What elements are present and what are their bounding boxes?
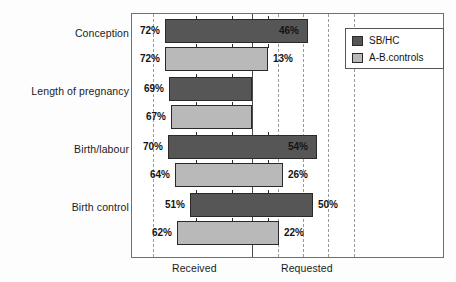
bar-length-of-pregnancy-abcontrols xyxy=(171,105,252,129)
value-label-length-of-pregnancy-abcontrols-received: 67% xyxy=(110,111,166,122)
legend-label-sbhc: SB/HC xyxy=(369,35,400,46)
value-label-birth-labour-abcontrols-received: 64% xyxy=(114,169,170,180)
value-label-birth-control-sbhc-received: 51% xyxy=(129,199,185,210)
category-label-birth-control: Birth control xyxy=(72,201,129,213)
bar-birth-control-sbhc xyxy=(190,193,313,217)
gridline-left-80 xyxy=(153,14,154,257)
legend-item-abcontrols: A-B.controls xyxy=(352,50,443,65)
gridline-right-60 xyxy=(328,14,329,257)
legend-item-sbhc: SB/HC xyxy=(352,33,443,48)
value-label-conception-abcontrols-received: 72% xyxy=(104,53,160,64)
value-label-birth-control-abcontrols-received: 62% xyxy=(116,227,172,238)
axis-caption-received: Received xyxy=(172,262,217,274)
bar-birth-labour-abcontrols xyxy=(175,163,283,187)
value-label-conception-sbhc-requested: 46% xyxy=(279,25,299,36)
legend-swatch-icon-abcontrols xyxy=(352,53,363,63)
value-label-birth-control-abcontrols-requested: 22% xyxy=(284,227,304,238)
value-label-birth-labour-sbhc-received: 70% xyxy=(107,141,163,152)
legend: SB/HC A-B.controls xyxy=(345,28,444,69)
value-label-birth-control-sbhc-requested: 50% xyxy=(318,199,338,210)
diverging-bar-chart: Conception Length of pregnancy Birth/lab… xyxy=(0,0,456,282)
axis-caption-requested: Requested xyxy=(281,262,333,274)
value-label-birth-labour-abcontrols-requested: 26% xyxy=(288,169,308,180)
value-label-length-of-pregnancy-sbhc-received: 69% xyxy=(108,83,164,94)
value-label-birth-labour-sbhc-requested: 54% xyxy=(288,141,308,152)
legend-label-abcontrols: A-B.controls xyxy=(369,52,423,63)
bar-conception-abcontrols xyxy=(165,47,268,71)
bar-birth-control-abcontrols xyxy=(177,221,279,245)
legend-swatch-icon-sbhc xyxy=(352,36,363,46)
bar-length-of-pregnancy-sbhc xyxy=(169,77,252,101)
value-label-conception-sbhc-received: 72% xyxy=(104,25,160,36)
value-label-conception-abcontrols-requested: 13% xyxy=(273,53,293,64)
